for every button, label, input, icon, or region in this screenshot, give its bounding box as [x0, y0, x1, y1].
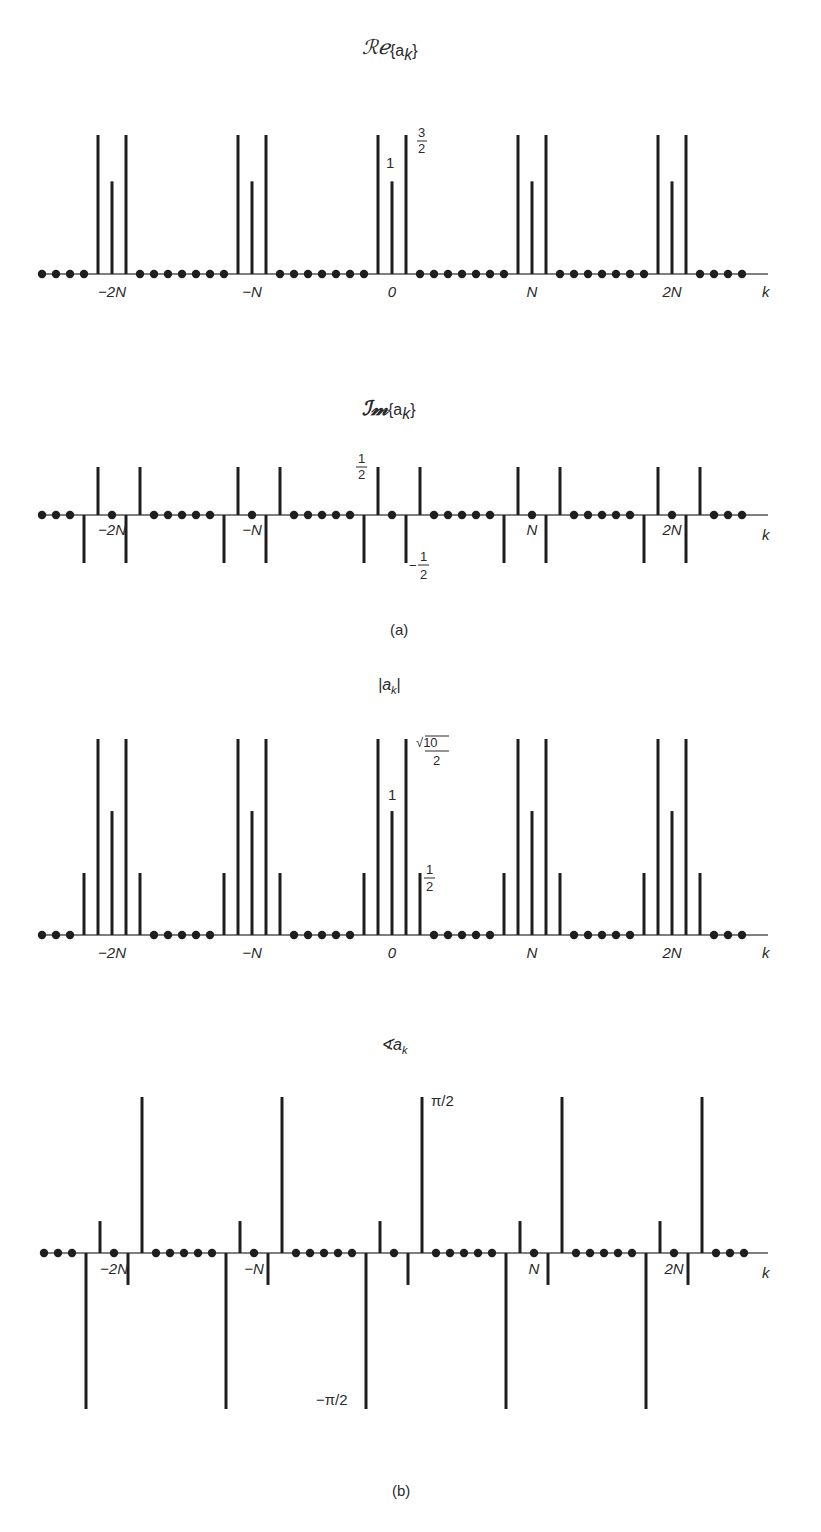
- zero-sample-dot: [668, 511, 676, 519]
- zero-sample-dot: [446, 1249, 454, 1257]
- zero-sample-dot: [570, 270, 578, 278]
- zero-sample-dot: [304, 270, 312, 278]
- magnitude-annotation-sqrt10-half: √10 2: [416, 735, 449, 768]
- zero-sample-dot: [192, 931, 200, 939]
- zero-sample-dot: [290, 270, 298, 278]
- real-k-axis-label: k: [762, 283, 771, 300]
- imag-annotation-half: 1 2: [356, 451, 367, 482]
- tick-label: −2N: [100, 1260, 128, 1277]
- panel-real-part: ℛℯ{ak} −2N−N0N2N k 1 3 2: [38, 36, 771, 300]
- zero-sample-dot: [192, 270, 200, 278]
- zero-sample-dot: [726, 1249, 734, 1257]
- zero-sample-dot: [346, 270, 354, 278]
- zero-sample-dot: [150, 931, 158, 939]
- zero-sample-dot: [584, 511, 592, 519]
- zero-sample-dot: [598, 270, 606, 278]
- zero-sample-dot: [444, 511, 452, 519]
- phase-tick-labels: −2N−NN2N: [100, 1260, 684, 1277]
- zero-sample-dot: [472, 270, 480, 278]
- zero-sample-dot: [458, 511, 466, 519]
- imag-k-axis-label: k: [762, 526, 771, 543]
- zero-sample-dot: [166, 1249, 174, 1257]
- svg-text:2: 2: [358, 467, 365, 482]
- zero-sample-dot: [612, 270, 620, 278]
- zero-sample-dot: [318, 270, 326, 278]
- zero-sample-dot: [150, 270, 158, 278]
- magnitude-title: |ak|: [378, 676, 401, 696]
- svg-text:1: 1: [358, 451, 365, 466]
- tick-label: −N: [242, 944, 262, 961]
- zero-sample-dot: [584, 270, 592, 278]
- zero-sample-dot: [430, 511, 438, 519]
- zero-sample-dot: [626, 270, 634, 278]
- zero-sample-dot: [612, 931, 620, 939]
- zero-sample-dot: [152, 1249, 160, 1257]
- zero-sample-dot: [320, 1249, 328, 1257]
- real-tick-labels: −2N−N0N2N: [98, 283, 682, 300]
- tick-label: N: [527, 521, 538, 538]
- zero-sample-dot: [52, 931, 60, 939]
- svg-text:2: 2: [420, 567, 427, 582]
- svg-text:2: 2: [418, 141, 425, 156]
- zero-sample-dot: [80, 270, 88, 278]
- panel-magnitude: |ak| −2N−N0N2N k √10 2 1 1 2: [38, 676, 771, 961]
- svg-text:√10: √10: [416, 735, 438, 750]
- zero-sample-dot: [710, 270, 718, 278]
- zero-sample-dot: [612, 511, 620, 519]
- zero-sample-dot: [626, 511, 634, 519]
- zero-sample-dot: [696, 270, 704, 278]
- zero-sample-dot: [332, 511, 340, 519]
- zero-sample-dot: [206, 270, 214, 278]
- zero-sample-dot: [458, 931, 466, 939]
- zero-sample-dot: [724, 511, 732, 519]
- zero-sample-dot: [740, 1249, 748, 1257]
- zero-sample-dot: [388, 511, 396, 519]
- zero-sample-dot: [178, 931, 186, 939]
- zero-sample-dot: [712, 1249, 720, 1257]
- zero-sample-dot: [710, 511, 718, 519]
- zero-sample-dot: [486, 270, 494, 278]
- zero-sample-dot: [360, 270, 368, 278]
- zero-sample-dot: [500, 270, 508, 278]
- zero-sample-dot: [332, 270, 340, 278]
- zero-sample-dot: [472, 511, 480, 519]
- caption-b: (b): [392, 1482, 410, 1499]
- zero-sample-dot: [530, 1249, 538, 1257]
- tick-label: −N: [244, 1260, 264, 1277]
- zero-sample-dot: [416, 270, 424, 278]
- real-part-title: ℛℯ{ak}: [362, 36, 418, 63]
- magnitude-k-axis-label: k: [762, 944, 771, 961]
- zero-sample-dot: [640, 270, 648, 278]
- zero-sample-dot: [738, 270, 746, 278]
- phase-title: ∢ak: [380, 1036, 408, 1056]
- zero-sample-dot: [626, 931, 634, 939]
- tick-label: 2N: [663, 1260, 683, 1277]
- zero-sample-dot: [304, 931, 312, 939]
- zero-sample-dot: [150, 511, 158, 519]
- zero-sample-dot: [66, 511, 74, 519]
- zero-sample-dot: [346, 511, 354, 519]
- zero-sample-dot: [136, 270, 144, 278]
- zero-sample-dot: [306, 1249, 314, 1257]
- tick-label: −2N: [98, 283, 126, 300]
- zero-sample-dot: [178, 511, 186, 519]
- imag-part-title: ℐ𝓂{ak}: [362, 397, 416, 422]
- zero-sample-dot: [488, 1249, 496, 1257]
- zero-sample-dot: [304, 511, 312, 519]
- tick-label: N: [527, 283, 538, 300]
- tick-label: 2N: [661, 521, 681, 538]
- zero-sample-dot: [738, 511, 746, 519]
- zero-sample-dot: [556, 270, 564, 278]
- zero-sample-dot: [248, 511, 256, 519]
- svg-text:2: 2: [433, 753, 440, 768]
- tick-label: N: [529, 1260, 540, 1277]
- zero-sample-dot: [474, 1249, 482, 1257]
- zero-sample-dot: [458, 270, 466, 278]
- zero-sample-dot: [208, 1249, 216, 1257]
- zero-sample-dot: [206, 511, 214, 519]
- zero-sample-dot: [600, 1249, 608, 1257]
- zero-sample-dot: [738, 931, 746, 939]
- zero-sample-dot: [292, 1249, 300, 1257]
- figure: ℛℯ{ak} −2N−N0N2N k 1 3 2 ℐ𝓂{ak} −2N−NN2N…: [0, 0, 821, 1532]
- zero-sample-dot: [220, 270, 228, 278]
